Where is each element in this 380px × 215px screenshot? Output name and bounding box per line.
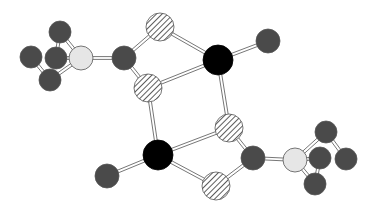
atom-hatched <box>134 74 162 102</box>
atom-dark <box>20 46 42 68</box>
atom-dark <box>112 46 136 70</box>
atom-hatched <box>146 13 174 41</box>
atom-dark <box>39 69 61 91</box>
atom-dark <box>241 146 265 170</box>
atom-light <box>69 46 93 70</box>
atom-dark <box>95 164 119 188</box>
atom-dark <box>256 29 280 53</box>
atom-black <box>203 45 233 75</box>
atom-dark <box>304 173 326 195</box>
atom-black <box>143 140 173 170</box>
molecule-canvas <box>0 0 380 215</box>
atom-hatched <box>202 172 230 200</box>
atom-dark <box>335 148 357 170</box>
atom-hatched <box>215 114 243 142</box>
atom-dark <box>45 47 67 69</box>
atom-dark <box>309 147 331 169</box>
atom-light <box>283 148 307 172</box>
molecule-diagram <box>0 0 380 215</box>
atom-dark <box>315 121 337 143</box>
atom-dark <box>49 21 71 43</box>
